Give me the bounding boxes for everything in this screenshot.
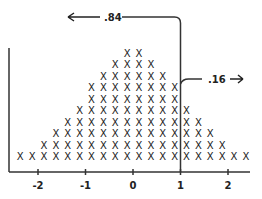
data-point-x: X [147, 140, 154, 151]
data-point-x: X [100, 94, 107, 105]
data-point-x: X [195, 128, 202, 139]
data-point-x: X [64, 117, 71, 128]
data-point-x: X [136, 105, 143, 116]
data-point-x: X [88, 105, 95, 116]
data-point-x: X [147, 117, 154, 128]
data-point-x: X [207, 140, 214, 151]
data-point-x: X [112, 151, 119, 162]
data-point-x: X [195, 140, 202, 151]
data-point-x: X [147, 71, 154, 82]
data-point-x: X [242, 151, 249, 162]
right-branch-line [181, 79, 203, 84]
data-point-x: X [171, 94, 178, 105]
data-point-x: X [124, 82, 131, 93]
data-point-x: X [124, 128, 131, 139]
x-tick-label: 1 [177, 180, 184, 191]
data-point-x: X [124, 71, 131, 82]
data-point-x: X [159, 128, 166, 139]
data-point-x: X [207, 151, 214, 162]
data-point-x: X [159, 105, 166, 116]
below-proportion-label: .84 [104, 12, 122, 23]
data-point-x: X [171, 105, 178, 116]
data-point-x: X [112, 94, 119, 105]
data-point-x: X [171, 82, 178, 93]
data-point-x: X [52, 151, 59, 162]
data-point-x: X [88, 128, 95, 139]
data-point-x: X [136, 48, 143, 59]
data-point-x: X [100, 82, 107, 93]
data-point-x: X [159, 151, 166, 162]
data-point-x: X [147, 94, 154, 105]
data-point-x: X [147, 59, 154, 70]
data-point-x: X [171, 151, 178, 162]
dot-plot-chart: -2-1012 XXXXXXXXXXXXXXXXXXXXXXXXXXXXXXXX… [0, 0, 262, 199]
data-point-x: X [29, 151, 36, 162]
data-point-x: X [112, 105, 119, 116]
data-point-x: X [159, 140, 166, 151]
data-point-x: X [136, 151, 143, 162]
data-point-x: X [159, 94, 166, 105]
data-point-x: X [88, 151, 95, 162]
data-point-x: X [147, 105, 154, 116]
data-point-x: X [183, 105, 190, 116]
data-point-x: X [207, 128, 214, 139]
data-point-x: X [52, 128, 59, 139]
data-point-x: X [147, 82, 154, 93]
above-proportion-label: .16 [208, 74, 226, 85]
left-arrow-icon [68, 13, 100, 21]
data-point-x: X [183, 128, 190, 139]
data-point-x: X [159, 71, 166, 82]
data-point-x: X [76, 117, 83, 128]
data-point-x: X [112, 140, 119, 151]
data-point-x: X [112, 82, 119, 93]
x-tick-label: -1 [80, 180, 91, 191]
data-point-x: X [136, 82, 143, 93]
data-point-x: X [52, 140, 59, 151]
data-point-x: X [88, 117, 95, 128]
data-point-x: X [159, 82, 166, 93]
data-point-x: X [100, 140, 107, 151]
x-tick-label: 0 [130, 180, 137, 191]
data-point-x: X [17, 151, 24, 162]
data-point-x: X [136, 59, 143, 70]
data-point-x: X [100, 151, 107, 162]
data-point-x: X [124, 59, 131, 70]
data-point-x: X [88, 82, 95, 93]
data-point-x: X [124, 94, 131, 105]
right-arrow-icon [230, 75, 243, 83]
data-point-x: X [231, 151, 238, 162]
data-point-x: X [64, 151, 71, 162]
data-point-x: X [183, 151, 190, 162]
data-point-x: X [112, 71, 119, 82]
data-point-x: X [147, 128, 154, 139]
data-point-x: X [147, 151, 154, 162]
data-point-x: X [171, 128, 178, 139]
data-point-x: X [124, 105, 131, 116]
data-point-x: X [76, 151, 83, 162]
data-point-x: X [76, 105, 83, 116]
data-point-x: X [124, 117, 131, 128]
data-point-x: X [124, 48, 131, 59]
data-point-x: X [100, 71, 107, 82]
data-point-x: X [64, 128, 71, 139]
data-point-x: X [136, 94, 143, 105]
data-point-x: X [136, 117, 143, 128]
data-point-x: X [159, 117, 166, 128]
data-point-x: X [171, 140, 178, 151]
data-point-x: X [219, 140, 226, 151]
data-point-x: X [195, 151, 202, 162]
data-point-x: X [195, 117, 202, 128]
data-point-x: X [136, 140, 143, 151]
data-point-x: X [88, 140, 95, 151]
data-point-x: X [171, 117, 178, 128]
data-point-x: X [64, 140, 71, 151]
data-point-x: X [41, 140, 48, 151]
data-point-x: X [112, 117, 119, 128]
x-tick-label: -2 [32, 180, 43, 191]
data-point-x: X [100, 105, 107, 116]
data-point-x: X [100, 117, 107, 128]
data-point-x: X [88, 94, 95, 105]
data-point-x: X [183, 140, 190, 151]
data-point-x: X [112, 128, 119, 139]
data-point-x: X [76, 128, 83, 139]
